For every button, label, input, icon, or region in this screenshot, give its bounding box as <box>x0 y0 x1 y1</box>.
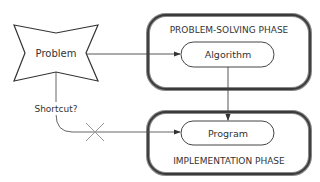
algorithm-label: Algorithm <box>205 49 252 60</box>
phase-title: IMPLEMENTATION PHASE <box>173 156 285 166</box>
phase-title: PROBLEM-SOLVING PHASE <box>170 25 289 35</box>
program-label: Program <box>208 128 248 139</box>
shortcut-label: Shortcut? <box>34 104 77 114</box>
implementation-phase: Program IMPLEMENTATION PHASE <box>148 112 310 174</box>
flow-diagram: Problem PROBLEM-SOLVING PHASE Algorithm … <box>0 0 320 182</box>
problem-label: Problem <box>36 48 77 59</box>
problem-solving-phase: PROBLEM-SOLVING PHASE Algorithm <box>148 15 310 89</box>
